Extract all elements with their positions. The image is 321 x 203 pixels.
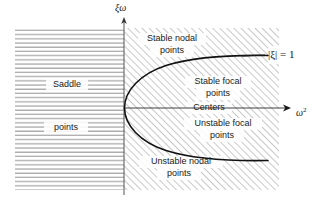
- region-label-unstable-nodal-line2: points: [157, 168, 201, 179]
- stability-diagram-figure: ξω ω2 |ξ| = 1 Saddle points Stable nodal…: [0, 0, 321, 203]
- region-label-saddle-line2: points: [44, 122, 88, 133]
- horizontal-axis-label-exponent: 2: [303, 106, 307, 114]
- region-label-stable-nodal-line1: Stable nodal: [138, 33, 206, 44]
- region-label-unstable-focal-line2: points: [200, 130, 244, 141]
- region-label-centers: Centers: [186, 102, 232, 113]
- xi-equals-one-label: |ξ| = 1: [268, 48, 295, 60]
- region-label-stable-nodal-line2: points: [150, 45, 194, 56]
- region-label-stable-focal-line2: points: [196, 88, 240, 99]
- region-label-unstable-focal-line1: Unstable focal: [184, 118, 262, 129]
- horizontal-axis-label: ω2: [296, 106, 307, 118]
- vertical-axis-label: ξω: [115, 2, 126, 13]
- region-label-unstable-nodal-line1: Unstable nodal: [139, 156, 223, 167]
- horizontal-axis-label-base: ω: [296, 107, 303, 118]
- region-label-stable-focal-line1: Stable focal: [185, 76, 251, 87]
- saddle-region-hatch: [15, 28, 124, 190]
- region-label-saddle-line1: Saddle: [46, 79, 88, 90]
